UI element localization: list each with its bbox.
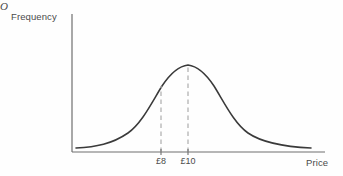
x-axis-label: Price (306, 157, 328, 168)
frequency-price-distribution-chart: Frequency Price O £8 £10 (0, 0, 343, 176)
chart-canvas (0, 0, 343, 176)
x-tick-label-price-8: £8 (156, 156, 166, 166)
y-axis-label: Frequency (11, 11, 57, 22)
x-tick-label-price-10: £10 (180, 156, 195, 166)
distribution-curve (76, 65, 311, 148)
